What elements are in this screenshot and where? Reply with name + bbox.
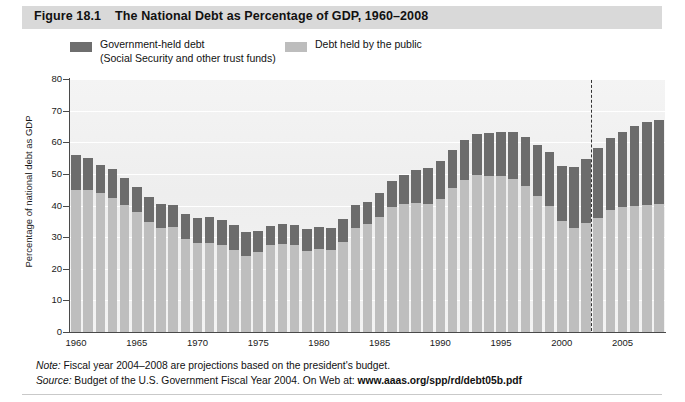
y-tick-mark-30 — [63, 237, 69, 238]
bar-1994 — [484, 133, 494, 332]
bar-1987 — [399, 175, 409, 332]
bar-segment-government-1990 — [436, 161, 446, 199]
bar-segment-public-1979 — [302, 251, 312, 332]
gridline-60 — [70, 142, 665, 143]
bar-segment-government-1983 — [351, 205, 361, 227]
bar-segment-public-1963 — [108, 198, 118, 332]
bar-2001 — [569, 167, 579, 332]
x-tick-label-2005: 2005 — [603, 337, 643, 348]
bar-segment-government-1975 — [253, 231, 263, 252]
x-tick-label-1985: 1985 — [360, 337, 400, 348]
y-axis-title: Percentage of national debt as GDP — [23, 72, 34, 312]
x-tick-label-1970: 1970 — [178, 337, 218, 348]
note-text: Fiscal year 2004–2008 are projections ba… — [61, 360, 390, 371]
x-tick-label-1995: 1995 — [481, 337, 521, 348]
bar-1993 — [472, 134, 482, 332]
bar-segment-public-1976 — [266, 245, 276, 332]
bar-segment-public-1969 — [181, 239, 191, 332]
bar-segment-government-1993 — [472, 134, 482, 175]
bar-1980 — [314, 227, 324, 332]
y-tick-mark-70 — [63, 111, 69, 112]
bar-segment-government-1978 — [290, 225, 300, 246]
figure-container: Figure 18.1The National Debt as Percenta… — [0, 0, 685, 402]
bar-1967 — [156, 204, 166, 332]
x-axis-line — [69, 332, 666, 333]
bar-segment-public-1989 — [423, 204, 433, 332]
chart-plot-area — [70, 79, 665, 332]
bar-segment-government-1982 — [338, 219, 348, 242]
bar-1996 — [508, 132, 518, 333]
bar-2008 — [654, 120, 664, 332]
bar-segment-public-1998 — [533, 196, 543, 332]
bar-segment-government-1994 — [484, 133, 494, 176]
bar-segment-public-1972 — [217, 245, 227, 332]
bar-1961 — [83, 158, 93, 332]
bar-segment-government-2005 — [618, 132, 628, 208]
note-line: Note: Fiscal year 2004–2008 are projecti… — [36, 358, 656, 373]
x-tick-label-1965: 1965 — [117, 337, 157, 348]
bar-1995 — [496, 132, 506, 333]
gridline-80 — [70, 79, 665, 80]
bar-1963 — [108, 169, 118, 333]
bar-1977 — [278, 224, 288, 332]
bar-segment-public-2001 — [569, 228, 579, 332]
bar-1991 — [448, 150, 458, 332]
bar-1982 — [338, 219, 348, 332]
bar-2004 — [606, 138, 616, 332]
bar-segment-public-1980 — [314, 249, 324, 332]
bar-segment-government-1979 — [302, 229, 312, 251]
bar-1979 — [302, 229, 312, 332]
chart-plot-wrapper: 01020304050607080 1960196519701975198019… — [0, 0, 685, 402]
bar-1983 — [351, 205, 361, 332]
x-tick-label-1990: 1990 — [420, 337, 460, 348]
bar-segment-government-1972 — [217, 220, 227, 245]
bar-1970 — [193, 218, 203, 332]
bar-segment-government-2001 — [569, 167, 579, 227]
bar-segment-public-1994 — [484, 176, 494, 332]
bar-2005 — [618, 132, 628, 333]
bar-segment-government-1974 — [241, 232, 251, 257]
bar-segment-public-1984 — [363, 224, 373, 332]
bar-segment-public-2008 — [654, 204, 664, 332]
bar-segment-government-1962 — [96, 165, 106, 193]
bar-segment-public-2006 — [630, 206, 640, 333]
bar-1976 — [266, 226, 276, 332]
bar-segment-public-1999 — [545, 206, 555, 332]
bar-2006 — [630, 126, 640, 332]
bar-segment-government-1999 — [545, 152, 555, 206]
bar-1968 — [168, 205, 178, 332]
bar-1974 — [241, 232, 251, 332]
bar-1965 — [132, 187, 142, 332]
bar-1964 — [120, 178, 130, 332]
bar-1960 — [71, 155, 81, 332]
bar-segment-government-1960 — [71, 155, 81, 189]
bar-1973 — [229, 225, 239, 332]
bar-segment-government-2007 — [642, 122, 652, 204]
bar-segment-government-1965 — [132, 187, 142, 212]
y-axis-tick-labels: 01020304050607080 — [10, 0, 62, 402]
bar-segment-public-1983 — [351, 228, 361, 332]
bar-2003 — [593, 148, 603, 332]
bar-segment-public-1966 — [144, 222, 154, 332]
bar-segment-government-1977 — [278, 224, 288, 245]
source-text: Budget of the U.S. Government Fiscal Yea… — [72, 375, 358, 386]
y-tick-mark-0 — [63, 332, 69, 333]
bar-segment-public-2004 — [606, 210, 616, 332]
bar-segment-public-2007 — [642, 205, 652, 332]
bar-segment-government-1968 — [168, 205, 178, 227]
bar-1978 — [290, 224, 300, 332]
bar-segment-public-1961 — [83, 190, 93, 332]
bar-segment-public-1975 — [253, 252, 263, 332]
bar-segment-government-1992 — [460, 140, 470, 179]
bar-segment-public-2002 — [581, 223, 591, 332]
source-url[interactable]: www.aaas.org/spp/rd/debt05b.pdf — [358, 375, 522, 386]
bar-segment-government-2002 — [581, 159, 591, 223]
y-tick-mark-50 — [63, 174, 69, 175]
bar-1972 — [217, 220, 227, 332]
bar-segment-government-2003 — [593, 148, 603, 218]
bar-segment-government-1985 — [375, 193, 385, 217]
bar-1988 — [411, 170, 421, 332]
y-tick-mark-20 — [63, 269, 69, 270]
bar-segment-government-1989 — [423, 168, 433, 203]
projection-divider-line — [591, 79, 592, 332]
